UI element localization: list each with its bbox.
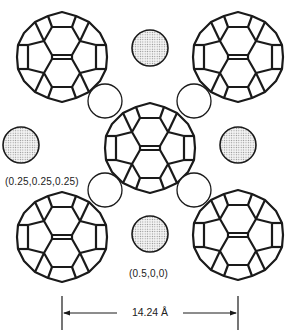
tetrahedral-site-2 (88, 173, 122, 207)
fullerene-lattice-diagram: (0.25,0.25,0.25) (0.5,0,0) 14.24 Å (0, 0, 295, 334)
tetrahedral-site-0 (88, 84, 122, 118)
c60-bottom-left-molecule (17, 192, 107, 282)
c60-bottom-right-molecule (193, 190, 283, 280)
octahedral-site-2 (220, 127, 256, 163)
c60-top-right-molecule (193, 12, 283, 102)
left-arrowhead-icon (63, 311, 70, 316)
diagram-canvas (0, 0, 295, 334)
octahedral-site-1 (3, 127, 39, 163)
tetrahedral-site-3 (177, 173, 211, 207)
right-arrowhead-icon (230, 311, 237, 316)
octahedral-site-label: (0.5,0,0) (129, 268, 168, 279)
octahedral-site-3 (132, 216, 168, 252)
octahedral-site-0 (132, 30, 168, 66)
tetrahedral-site-label: (0.25,0.25,0.25) (5, 176, 79, 187)
lattice-constant-label: 14.24 Å (132, 306, 168, 318)
tetrahedral-site-1 (177, 84, 211, 118)
